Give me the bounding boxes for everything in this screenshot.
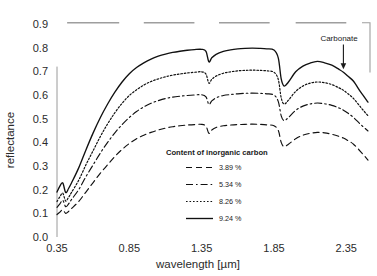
curve-826 [57, 70, 368, 201]
y-tick-0.8: 0.8 [33, 42, 48, 54]
y-tick-0.9: 0.9 [33, 18, 48, 30]
legend-label-389: 3.89 % [219, 163, 242, 172]
right-bracket [362, 23, 370, 73]
legend-label-534: 5.34 % [219, 180, 242, 189]
legend-title: Content of inorganic carbon [166, 148, 268, 157]
legend-label-924: 9.24 % [219, 214, 242, 223]
y-tick-0.5: 0.5 [33, 113, 48, 125]
legend-label-826: 8.26 % [219, 197, 242, 206]
y-tick-0.6: 0.6 [33, 89, 48, 101]
x-axis-title: wavelength [µm] [155, 258, 240, 270]
y-tick-0.7: 0.7 [33, 65, 48, 77]
y-tick-0.3: 0.3 [33, 160, 48, 172]
y-tick-0.4: 0.4 [33, 136, 48, 148]
chart-annotations: Carbonate [320, 23, 370, 73]
y-tick-0.2: 0.2 [33, 184, 48, 196]
x-tick-0.85: 0.85 [119, 242, 140, 254]
reflectance-spectra-chart: 0.00.10.20.30.40.50.60.70.80.9 0.350.851… [0, 0, 377, 276]
y-tick-0.1: 0.1 [33, 207, 48, 219]
x-tick-0.35: 0.35 [46, 242, 67, 254]
carbonate-annotation-label: Carbonate [320, 34, 358, 43]
y-axis-tick-labels: 0.00.10.20.30.40.50.60.70.80.9 [33, 18, 48, 243]
curve-389 [57, 124, 368, 214]
x-axis-tick-labels: 0.350.851.351.852.35 [46, 242, 357, 254]
x-tick-1.35: 1.35 [191, 242, 212, 254]
carbonate-arrow-head [341, 63, 347, 69]
chart-legend: Content of inorganic carbon3.89 %5.34 %8… [166, 148, 268, 223]
chart-figure: 0.00.10.20.30.40.50.60.70.80.9 0.350.851… [0, 0, 377, 276]
x-tick-1.85: 1.85 [263, 242, 284, 254]
y-axis-title: reflectance [4, 112, 16, 168]
spectra-curves [57, 48, 368, 214]
curve-924 [57, 48, 368, 193]
x-tick-2.35: 2.35 [336, 242, 357, 254]
